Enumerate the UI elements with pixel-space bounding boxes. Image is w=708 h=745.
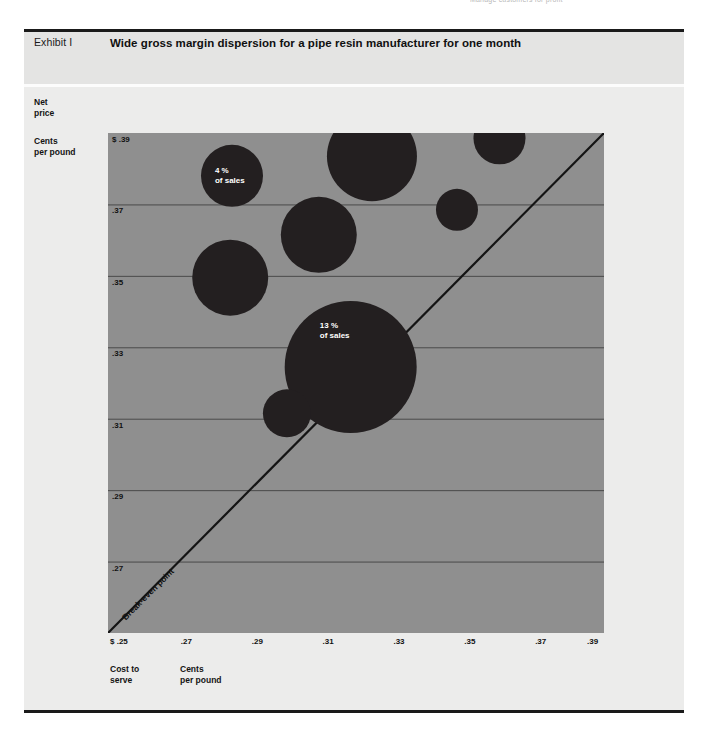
data-bubble[interactable]	[436, 189, 478, 231]
y-tick-label: .35	[112, 278, 123, 287]
y-axis-units: Cents per pound	[34, 136, 76, 157]
x-tick-label: .33	[393, 637, 404, 646]
running-head: Manage customers for profit	[470, 0, 690, 5]
y-axis-title-line2: price	[34, 108, 54, 119]
x-tick-label: .31	[323, 637, 334, 646]
data-bubble[interactable]	[473, 133, 525, 164]
bubble-label-line1: 13 %	[320, 321, 350, 331]
bubble-label: 4 %of sales	[215, 166, 245, 186]
y-tick-label: .31	[112, 421, 123, 430]
x-tick-label: .37	[535, 637, 546, 646]
plot-canvas	[108, 133, 604, 633]
exhibit-title: Wide gross margin dispersion for a pipe …	[110, 36, 540, 51]
x-tick-label: .35	[464, 637, 475, 646]
title-band-separator	[24, 84, 684, 87]
y-tick-label: .29	[112, 492, 123, 501]
bubble-label-line2: of sales	[215, 176, 245, 186]
x-axis-units: Cents per pound	[180, 664, 222, 685]
exhibit-page: Manage customers for profit Exhibit I Wi…	[0, 0, 708, 745]
x-axis-units-line1: Cents	[180, 664, 222, 675]
y-tick-label: .37	[112, 206, 123, 215]
bottom-rule	[24, 710, 684, 713]
x-tick-label: .39	[587, 637, 598, 646]
y-axis-units-line1: Cents	[34, 136, 76, 147]
x-tick-label: .27	[181, 637, 192, 646]
data-bubble[interactable]	[281, 197, 357, 273]
y-axis-title: Net price	[34, 97, 54, 118]
data-bubble[interactable]	[263, 389, 311, 437]
x-axis-title-line2: serve	[110, 675, 139, 686]
bubble-label-line2: of sales	[320, 331, 350, 341]
y-axis-title-line1: Net	[34, 97, 54, 108]
y-axis-units-line2: per pound	[34, 147, 76, 158]
y-tick-label: .27	[112, 564, 123, 573]
x-tick-label: .29	[252, 637, 263, 646]
data-bubble[interactable]	[327, 133, 417, 201]
y-tick-label: $ .39	[112, 135, 130, 144]
bubble-label-line1: 4 %	[215, 166, 245, 176]
exhibit-label: Exhibit I	[34, 36, 72, 48]
y-tick-label: .33	[112, 349, 123, 358]
bubble-label: 13 %of sales	[320, 321, 350, 341]
x-axis-title: Cost to serve	[110, 664, 139, 685]
x-axis-title-line1: Cost to	[110, 664, 139, 675]
x-tick-label: $ .25	[110, 637, 128, 646]
scatter-plot	[108, 133, 604, 633]
x-axis-units-line2: per pound	[180, 675, 222, 686]
data-bubble[interactable]	[192, 240, 268, 316]
